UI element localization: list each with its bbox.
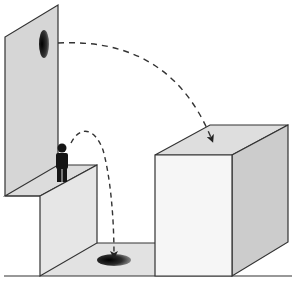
box [155,125,288,276]
diagram-canvas [0,0,294,283]
trajectory-exit [58,43,212,140]
wall [5,5,58,196]
wall-portal-icon [39,30,49,58]
portal-diagram [0,0,294,283]
